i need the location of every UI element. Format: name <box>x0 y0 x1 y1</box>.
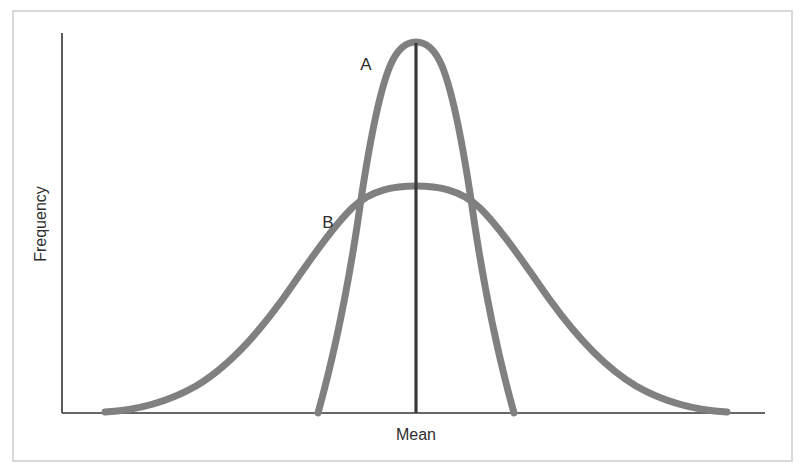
normal-distribution-chart: A B Mean Frequency <box>0 0 803 476</box>
figure-root: A B Mean Frequency <box>0 0 803 476</box>
curve-label-a: A <box>360 55 372 74</box>
curve-label-b: B <box>322 213 333 232</box>
y-axis-label: Frequency <box>32 186 49 262</box>
x-axis-label: Mean <box>396 426 436 443</box>
